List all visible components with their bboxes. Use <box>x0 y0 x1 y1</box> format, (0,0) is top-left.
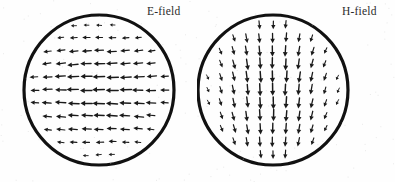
arrow-head <box>310 38 314 42</box>
field-arrow <box>146 61 155 65</box>
field-arrow <box>57 140 64 144</box>
field-arrow <box>94 61 105 66</box>
arrow-shaft <box>247 97 248 103</box>
arrow-head <box>283 142 288 147</box>
arrow-shaft <box>233 72 234 77</box>
field-arrow <box>84 23 89 26</box>
field-arrow <box>283 137 288 146</box>
field-arrow <box>42 87 52 92</box>
field-arrow <box>80 74 92 79</box>
arrow-head <box>132 88 137 93</box>
arrow-head <box>108 36 112 40</box>
arrow-head <box>82 36 86 40</box>
field-arrow <box>106 101 118 106</box>
field-arrow <box>258 72 263 84</box>
field-arrow <box>271 109 276 121</box>
field-arrow <box>106 61 117 66</box>
arrow-head <box>244 117 249 122</box>
field-arrow <box>337 88 340 93</box>
field-arrow <box>258 98 263 110</box>
arrow-shaft <box>337 100 338 103</box>
field-arrow <box>133 101 144 106</box>
arrow-head <box>133 126 138 130</box>
arrow-head <box>160 74 164 78</box>
arrow-shaft <box>138 50 143 51</box>
arrow-head <box>44 128 48 132</box>
field-arrow <box>324 113 328 120</box>
field-arrow <box>284 71 289 83</box>
arrow-head <box>271 25 275 29</box>
arrow-shaft <box>326 125 327 128</box>
arrow-head <box>133 101 138 106</box>
field-arrow <box>68 113 78 118</box>
field-arrow <box>106 49 116 54</box>
arrow-head <box>309 116 313 121</box>
arrow-shaft <box>61 50 65 51</box>
arrow-head <box>244 51 249 56</box>
arrow-head <box>42 101 47 106</box>
field-arrow <box>231 47 235 55</box>
field-arrow <box>95 153 101 156</box>
arrow-head <box>284 117 289 122</box>
arrow-head <box>119 100 124 105</box>
arrow-head <box>219 102 223 106</box>
field-arrow <box>245 138 249 147</box>
arrow-head <box>257 38 262 43</box>
field-arrow <box>283 59 288 70</box>
arrow-head <box>296 90 301 95</box>
field-arrow <box>324 125 327 131</box>
field-arrow <box>96 24 102 27</box>
arrow-head <box>232 38 236 42</box>
arrow-head <box>284 104 289 109</box>
arrow-shaft <box>326 113 327 116</box>
field-arrow <box>82 140 90 144</box>
arrow-head <box>68 113 73 118</box>
arrow-shaft <box>60 63 65 64</box>
arrow-head <box>311 51 315 56</box>
arrow-head <box>283 91 288 96</box>
field-arrow <box>146 101 156 106</box>
arrow-head <box>284 78 289 83</box>
field-arrow <box>96 140 104 144</box>
arrow-shaft <box>311 85 312 91</box>
field-arrow <box>296 46 301 56</box>
arrow-head <box>297 78 302 83</box>
arrow-head <box>120 61 125 66</box>
arrow-shaft <box>219 48 220 51</box>
arrow-head <box>297 38 301 43</box>
arrow-head <box>43 49 47 53</box>
arrow-shaft <box>312 72 313 77</box>
field-arrow <box>133 126 142 130</box>
arrow-head <box>310 103 314 108</box>
field-arrow <box>160 74 168 78</box>
field-arrow <box>43 75 52 80</box>
arrow-shaft <box>325 61 326 64</box>
arrow-shaft <box>246 71 247 78</box>
arrow-shaft <box>220 74 221 78</box>
arrow-shaft <box>233 138 234 142</box>
field-arrow <box>82 49 92 54</box>
arrow-head <box>71 24 74 27</box>
field-arrow <box>147 127 154 131</box>
field-arrow <box>244 111 249 121</box>
arrow-head <box>283 52 288 57</box>
field-arrow <box>70 36 77 40</box>
field-arrow <box>284 111 289 122</box>
arrow-shaft <box>312 35 313 38</box>
arrow-head <box>233 128 237 133</box>
arrow-shaft <box>220 60 221 63</box>
arrow-head <box>147 127 151 131</box>
field-arrow <box>44 128 52 132</box>
field-arrow <box>323 61 327 68</box>
field-arrow <box>284 97 289 109</box>
field-arrow <box>94 48 103 53</box>
field-arrow <box>258 124 263 135</box>
field-arrow <box>311 138 315 145</box>
field-arrow <box>106 75 118 80</box>
arrow-shaft <box>298 59 299 65</box>
field-arrow <box>297 124 302 134</box>
arrow-head <box>70 36 74 40</box>
arrow-head <box>134 140 138 144</box>
field-arrow <box>68 101 79 106</box>
field-arrow <box>220 125 224 132</box>
